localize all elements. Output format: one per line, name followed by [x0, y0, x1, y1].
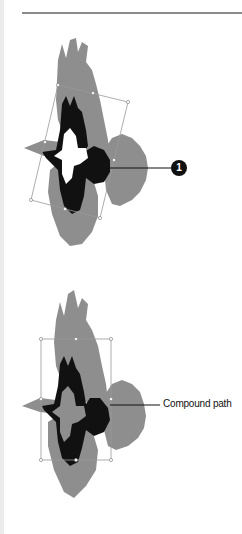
bird-illustration-1 [0, 0, 242, 260]
handle-left-mid[interactable] [39, 397, 42, 400]
handle-bottom-mid[interactable] [74, 458, 77, 461]
figure-1: 1 [0, 0, 242, 260]
handle-bottom-right[interactable] [109, 458, 112, 461]
handle-right-mid[interactable] [112, 158, 115, 161]
handle-bottom-left[interactable] [39, 458, 42, 461]
handle-right-mid[interactable] [109, 397, 112, 400]
handle-bottom-right[interactable] [98, 216, 101, 219]
handle-left-mid[interactable] [43, 140, 46, 143]
figure-2: Compound path [0, 270, 242, 510]
handle-top-left[interactable] [39, 337, 42, 340]
handle-top-mid[interactable] [74, 337, 77, 340]
callout-label-compound-path: Compound path [163, 398, 232, 409]
handle-bottom-left[interactable] [29, 198, 32, 201]
handle-top-mid[interactable] [91, 91, 94, 94]
bird-illustration-2 [0, 270, 242, 510]
callout-number-badge: 1 [171, 160, 187, 176]
handle-top-left[interactable] [56, 83, 59, 86]
handle-top-right[interactable] [109, 337, 112, 340]
handle-top-right[interactable] [126, 100, 129, 103]
handle-bottom-mid[interactable] [63, 207, 66, 210]
